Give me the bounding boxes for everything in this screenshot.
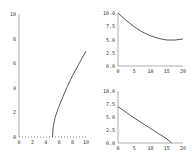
y-tick-label: 0 — [13, 134, 16, 140]
y-tick-label: 7.5 — [106, 23, 115, 29]
y-tick-label: 6 — [13, 60, 16, 66]
y-tick-label: 2 — [13, 109, 16, 115]
series-line — [118, 107, 172, 143]
chart-left: 02468100246810 — [10, 11, 89, 145]
y-tick-label: 4 — [13, 85, 16, 91]
x-tick-label: 15 — [164, 145, 170, 151]
y-tick-label: 10.0 — [103, 10, 115, 16]
series-line — [118, 13, 183, 40]
x-tick-label: 4 — [44, 139, 47, 145]
y-tick-label: 5.0 — [106, 114, 115, 120]
x-tick-label: 6 — [58, 139, 61, 145]
x-tick-label: 2 — [31, 139, 34, 145]
y-tick-label: 0.0 — [106, 63, 115, 69]
x-tick-label: 10 — [147, 145, 153, 151]
x-tick-label: 15 — [164, 68, 170, 74]
x-tick-label: 5 — [133, 145, 136, 151]
y-tick-label: 8 — [13, 36, 16, 42]
y-tick-label: 2.5 — [106, 50, 115, 56]
y-tick-label: 0.0 — [106, 140, 115, 146]
x-tick-label: 5 — [133, 68, 136, 74]
x-tick-label: 10 — [83, 139, 89, 145]
series-line — [53, 51, 87, 137]
x-tick-label: 20 — [180, 68, 186, 74]
x-tick-label: 8 — [71, 139, 74, 145]
x-tick-label: 20 — [180, 145, 186, 151]
y-tick-label: 5.0 — [106, 37, 115, 43]
x-tick-label: 0 — [116, 68, 119, 74]
x-tick-label: 0 — [116, 145, 119, 151]
chart-bottom-right: 051015200.02.55.07.510.0 — [103, 88, 186, 151]
x-tick-label: 10 — [147, 68, 153, 74]
y-tick-label: 10.0 — [103, 88, 115, 94]
y-tick-label: 7.5 — [106, 101, 115, 107]
y-tick-label: 10 — [10, 11, 16, 17]
x-tick-label: 0 — [17, 139, 20, 145]
figure: 02468100246810 051015200.02.55.07.510.0 … — [0, 0, 192, 156]
y-tick-label: 2.5 — [106, 127, 115, 133]
chart-top-right: 051015200.02.55.07.510.0 — [103, 10, 186, 74]
